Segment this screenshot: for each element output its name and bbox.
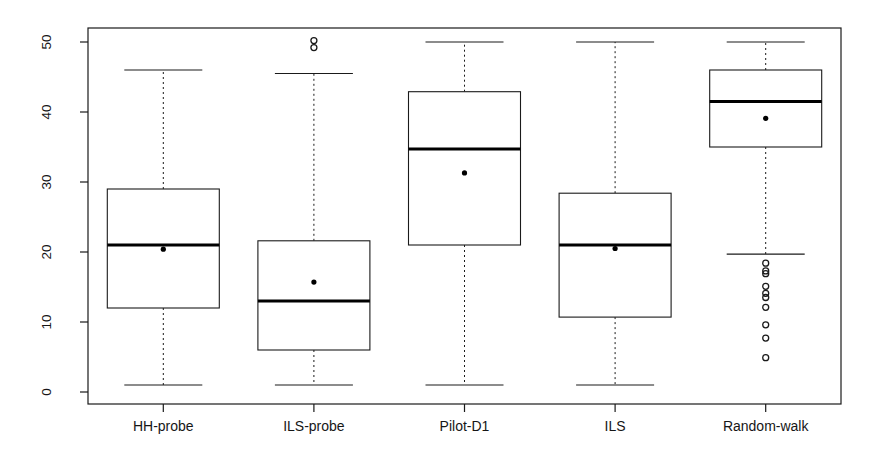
box-series <box>107 38 821 385</box>
outlier-point <box>763 283 769 289</box>
box-iqr <box>409 92 521 245</box>
y-tick-label: 50 <box>39 34 54 49</box>
x-tick-label: Random-walk <box>666 418 866 434</box>
outlier-point <box>763 335 769 341</box>
box-iqr <box>710 70 822 147</box>
y-tick-label: 20 <box>39 244 54 259</box>
mean-marker <box>613 246 618 251</box>
mean-marker <box>462 170 467 175</box>
mean-marker <box>311 280 316 285</box>
outlier-point <box>763 355 769 361</box>
boxplot-group <box>409 42 521 385</box>
outlier-point <box>311 45 317 51</box>
box-iqr <box>258 241 370 350</box>
boxplot-group <box>258 38 370 385</box>
box-iqr <box>559 193 671 317</box>
outlier-point <box>763 260 769 266</box>
boxplot-group <box>710 42 822 361</box>
y-tick-label: 40 <box>39 104 54 119</box>
outlier-point <box>763 295 769 301</box>
boxplot-canvas <box>0 0 881 455</box>
mean-marker <box>161 247 166 252</box>
boxplot-group <box>559 42 671 385</box>
y-tick-label: 10 <box>39 314 54 329</box>
boxplot-group <box>107 70 219 385</box>
outlier-point <box>311 38 317 44</box>
outlier-point <box>763 322 769 328</box>
boxplot-figure: Rank (over all runs per instance) 010203… <box>0 0 881 455</box>
y-tick-label: 30 <box>39 174 54 189</box>
outlier-point <box>763 304 769 310</box>
y-tick-label: 0 <box>39 388 54 396</box>
mean-marker <box>763 116 768 121</box>
